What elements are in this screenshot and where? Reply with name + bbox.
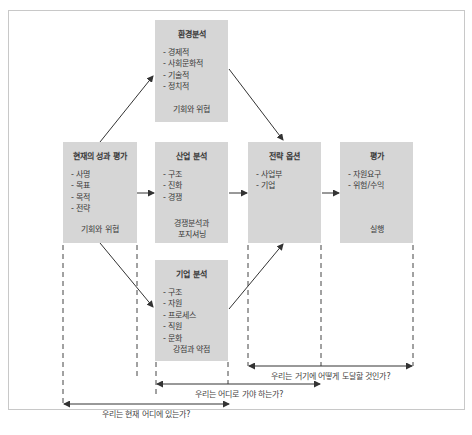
company-items: 구조 자원 프로세스 직원 문화 bbox=[155, 287, 228, 345]
evaluation-box: 평가 자원요구 위험/수익 실행 bbox=[340, 142, 413, 243]
environment-footer: 기회와 위협 bbox=[155, 104, 228, 115]
list-item: 프로세스 bbox=[163, 310, 228, 322]
question-where-now: 우리는 현재 어디에 있는가? bbox=[63, 408, 229, 419]
list-item: 구조 bbox=[163, 287, 228, 299]
current-footer: 기회와 위협 bbox=[63, 224, 137, 235]
arrow-current-to-environment bbox=[100, 76, 153, 142]
list-item: 기업 bbox=[256, 180, 321, 192]
list-item: 위험/수익 bbox=[348, 180, 413, 192]
environment-title: 환경분석 bbox=[155, 29, 228, 41]
question-how-get-there: 우리는 거기에 어떻게 도달할 것인가? bbox=[248, 370, 414, 381]
company-title: 기업 분석 bbox=[155, 269, 228, 281]
industry-footer-line1: 경쟁분석과 bbox=[155, 218, 228, 229]
environment-items: 경제적 사회문화적 기술적 정치적 bbox=[155, 47, 228, 93]
strategy-options-box: 전략 옵션 사업부 기업 bbox=[248, 142, 321, 243]
strategy-items: 사업부 기업 bbox=[248, 169, 321, 192]
list-item: 전략 bbox=[71, 203, 137, 215]
question-where-go: 우리는 어디로 가야 하는가? bbox=[156, 388, 322, 399]
current-title: 현재의 성과 평가 bbox=[63, 151, 137, 163]
industry-title: 산업 분석 bbox=[155, 151, 228, 163]
list-item: 문화 bbox=[163, 333, 228, 345]
current-items: 사명 목표 목적 전략 bbox=[63, 169, 137, 215]
arrow-company-to-strategy bbox=[229, 244, 283, 309]
industry-items: 구조 진화 경쟁 bbox=[155, 169, 228, 204]
company-analysis-box: 기업 분석 구조 자원 프로세스 직원 문화 강점과 약점 bbox=[155, 260, 228, 361]
company-footer: 강점과 약점 bbox=[155, 344, 228, 355]
list-item: 자원 bbox=[163, 298, 228, 310]
evaluation-items: 자원요구 위험/수익 bbox=[340, 169, 413, 192]
list-item: 목표 bbox=[71, 180, 137, 192]
list-item: 구조 bbox=[163, 169, 228, 181]
arrow-current-to-company bbox=[100, 243, 153, 307]
evaluation-footer: 실행 bbox=[340, 224, 413, 235]
list-item: 사회문화적 bbox=[163, 58, 228, 70]
strategy-title: 전략 옵션 bbox=[248, 151, 321, 163]
arrow-environment-to-strategy bbox=[229, 69, 283, 140]
list-item: 사명 bbox=[71, 169, 137, 181]
environment-analysis-box: 환경분석 경제적 사회문화적 기술적 정치적 기회와 위협 bbox=[155, 20, 228, 122]
list-item: 경제적 bbox=[163, 47, 228, 59]
list-item: 직원 bbox=[163, 321, 228, 333]
current-performance-box: 현재의 성과 평가 사명 목표 목적 전략 기회와 위협 bbox=[63, 142, 137, 243]
list-item: 자원요구 bbox=[348, 169, 413, 181]
list-item: 기술적 bbox=[163, 70, 228, 82]
list-item: 목적 bbox=[71, 192, 137, 204]
evaluation-title: 평가 bbox=[340, 151, 413, 163]
industry-analysis-box: 산업 분석 구조 진화 경쟁 경쟁분석과 포지셔닝 bbox=[155, 142, 228, 243]
list-item: 사업부 bbox=[256, 169, 321, 181]
list-item: 정치적 bbox=[163, 81, 228, 93]
industry-footer-line2: 포지셔닝 bbox=[155, 229, 228, 240]
list-item: 진화 bbox=[163, 180, 228, 192]
list-item: 경쟁 bbox=[163, 192, 228, 204]
